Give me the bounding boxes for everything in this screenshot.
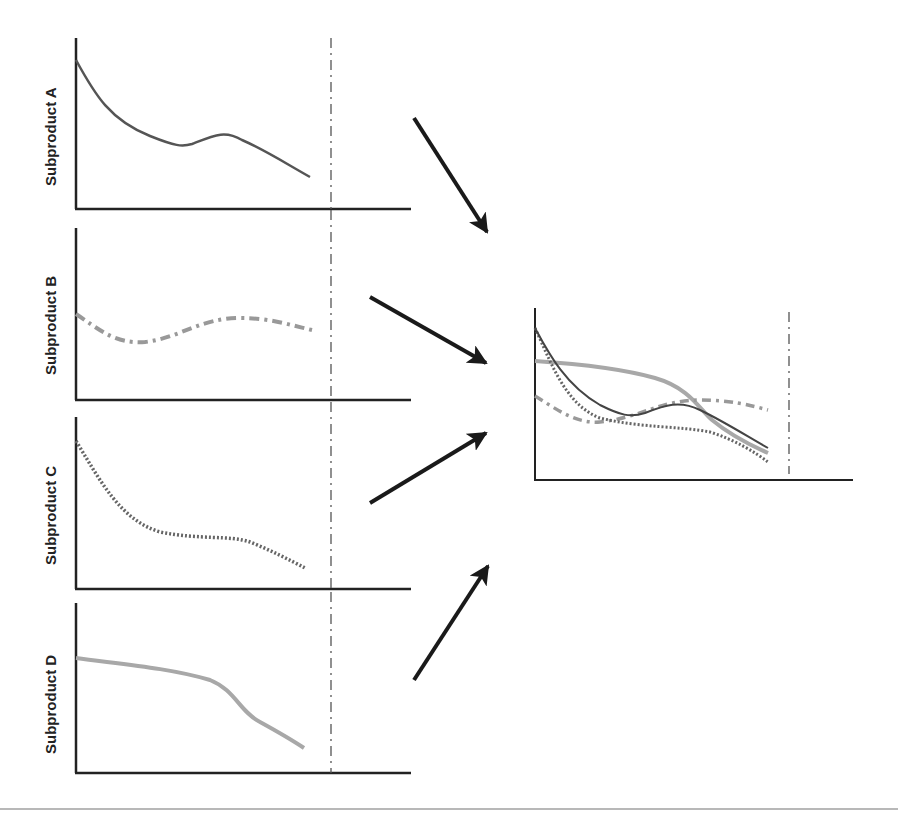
panel-subproduct-a — [75, 38, 411, 209]
panel-subproduct-b — [75, 210, 411, 400]
line-subproduct-d — [76, 658, 304, 748]
bottom-divider — [0, 808, 898, 810]
arrow-b-icon — [370, 297, 486, 363]
arrow-d-icon — [414, 566, 488, 680]
arrow-c-icon — [370, 433, 486, 503]
line-subproduct-b — [76, 314, 312, 342]
combined-line-a — [535, 328, 768, 448]
arrow-a-icon — [414, 118, 487, 232]
panel-subproduct-c — [75, 402, 411, 589]
line-subproduct-c — [76, 441, 305, 568]
line-subproduct-a — [76, 60, 310, 177]
combined-chart — [534, 308, 853, 480]
combined-line-c — [535, 328, 768, 462]
combined-line-d — [535, 361, 768, 453]
combined-line-b — [535, 396, 768, 422]
panel-subproduct-d — [75, 592, 411, 773]
diagram-canvas — [0, 0, 898, 816]
